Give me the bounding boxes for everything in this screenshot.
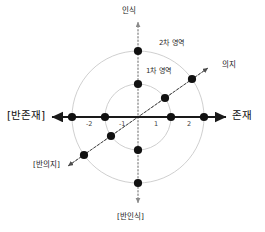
tick-label-plus-1: 1 [154,121,158,128]
data-point [188,75,196,83]
data-point [200,113,208,121]
data-point [134,179,142,187]
data-point [161,94,169,102]
axis-label-vertical-positive: 인식 [122,7,136,15]
data-point [134,146,142,154]
axis-label-diagonal-positive: 의지 [222,61,236,69]
data-point [80,151,88,159]
tick-label-minus-1: -1 [119,121,125,128]
axis-label-horizontal-positive: 존재 [232,110,252,121]
tick-label-minus-2: -2 [86,121,92,128]
data-point [134,47,142,55]
axis-label-diagonal-negative: [반의지] [33,161,60,169]
axis-label-horizontal-negative: [반존재] [7,110,45,121]
data-point [167,113,175,121]
region-label-outer: 2차 영역 [159,40,184,47]
tick-label-plus-2: 2 [187,121,191,128]
diagram-canvas: 인식 [반인식] 존재 [반존재] 의지 [반의지] 2차 영역 1차 영역 -… [0,0,265,232]
data-point [107,132,115,140]
data-point [134,80,142,88]
axis-label-vertical-negative: [반인식] [117,213,144,221]
data-point [101,113,109,121]
data-point [68,113,76,121]
region-label-inner: 1차 영역 [146,68,171,75]
